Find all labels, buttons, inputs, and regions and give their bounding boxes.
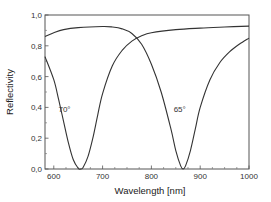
- y-axis-ticks: 0,00,20,40,60,81,0: [31, 11, 49, 174]
- x-tick-label: 600: [47, 172, 61, 181]
- x-tick-label: 1000: [240, 172, 258, 181]
- plot-frame: [45, 15, 249, 169]
- x-axis-title: Wavelength [nm]: [115, 185, 186, 196]
- y-tick-label: 0,4: [31, 103, 43, 112]
- angle-label: 65°: [174, 105, 186, 114]
- x-tick-label: 700: [96, 172, 110, 181]
- angle-label: 70°: [58, 105, 70, 114]
- reflectivity-chart: 6007008009001000 0,00,20,40,60,81,0 70°6…: [0, 0, 271, 202]
- y-tick-label: 0,6: [31, 73, 43, 82]
- x-axis-ticks: 6007008009001000: [47, 166, 258, 182]
- y-tick-label: 1,0: [31, 11, 43, 20]
- y-tick-label: 0,8: [31, 42, 43, 51]
- y-tick-label: 0,0: [31, 165, 43, 174]
- x-tick-label: 800: [145, 172, 159, 181]
- plot-border: [45, 15, 249, 169]
- y-axis-title: Reflectivity: [4, 69, 15, 115]
- x-tick-label: 900: [194, 172, 208, 181]
- curves: [45, 26, 249, 169]
- reflectivity-curve-70deg: [45, 26, 249, 169]
- y-tick-label: 0,2: [31, 134, 43, 143]
- reflectivity-curve-65deg: [45, 27, 249, 169]
